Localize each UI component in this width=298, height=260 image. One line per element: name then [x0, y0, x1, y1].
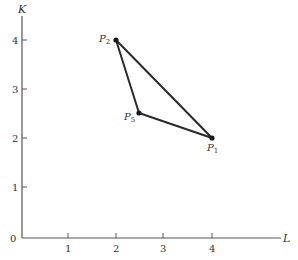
point-label-p1: P1	[206, 142, 218, 155]
y-ticks: 1 2 3 4	[12, 35, 27, 193]
point-label-p5: P5	[123, 111, 135, 124]
x-tick-label-2: 2	[113, 243, 119, 254]
y-axis-label: K	[17, 3, 27, 16]
x-tick-label-1: 1	[65, 243, 71, 254]
x-tick-label-3: 3	[160, 243, 166, 254]
y-tick-label-2: 2	[12, 133, 18, 144]
x-ticks: 1 2 3 4	[65, 233, 215, 254]
x-tick-label-4: 4	[209, 243, 215, 254]
y-tick-label-3: 3	[12, 84, 18, 95]
point-p1	[209, 135, 214, 140]
point-p2	[113, 37, 118, 42]
origin-label: 0	[10, 233, 16, 244]
y-tick-label-1: 1	[12, 182, 18, 193]
diagram-canvas: K L 0 1 2 3 4 1 2 3 4 P2 P5 P1	[0, 0, 298, 260]
point-p5	[136, 110, 141, 115]
x-axis-label: L	[282, 232, 290, 245]
y-tick-label-4: 4	[12, 35, 18, 46]
point-label-p2: P2	[98, 33, 110, 46]
